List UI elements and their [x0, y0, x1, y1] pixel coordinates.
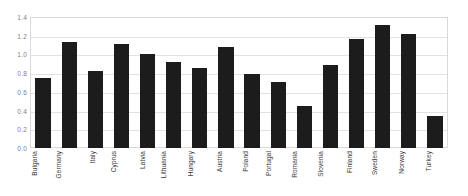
x-tick-label: Romania	[291, 151, 298, 178]
x-tick-slot: Finland	[344, 149, 370, 196]
x-tick-label: Portugal	[266, 151, 273, 176]
x-tick-label: Poland	[242, 151, 249, 172]
x-tick-slot: Portugal	[265, 149, 291, 196]
x-tick-label: Finland	[346, 151, 353, 173]
x-tick-slot: Latvia	[135, 149, 161, 196]
x-axis: BulgariaGermanyItalyCyprusLatviaLithuani…	[30, 149, 448, 196]
y-tick-label: 0.6	[17, 88, 27, 95]
x-tick-slot: Bulgaria	[30, 149, 56, 196]
x-tick-label: Norway	[397, 151, 404, 174]
x-tick-label: Germany	[55, 151, 62, 178]
plot-area	[30, 17, 448, 148]
x-tick-label: Hungary	[187, 151, 194, 176]
x-tick-label: Turkey	[425, 151, 432, 171]
x-tick-label: Bulgaria	[31, 151, 38, 176]
y-tick-label: 1.2	[17, 32, 27, 39]
x-tick-slot: Cyprus	[108, 149, 134, 196]
y-tick-label: 1.4	[17, 14, 27, 21]
y-tick-label: 0.4	[17, 107, 27, 114]
x-tick-label: Cyprus	[111, 151, 118, 172]
y-tick-label: 0.0	[17, 145, 27, 152]
x-tick-slot: Germany	[56, 149, 82, 196]
gridline	[31, 37, 447, 38]
gridline	[31, 130, 447, 131]
x-tick-slot: Turkey	[422, 149, 448, 196]
x-tick-slot: Italy	[82, 149, 108, 196]
gridline	[31, 55, 447, 56]
x-tick-label: Slovenia	[318, 151, 325, 177]
x-tick-label: Latvia	[139, 151, 146, 169]
gridline	[31, 93, 447, 94]
y-tick-label: 0.2	[17, 126, 27, 133]
x-tick-slot: Poland	[239, 149, 265, 196]
x-tick-label: Italy	[89, 151, 96, 163]
y-tick-label: 1.0	[17, 51, 27, 58]
gridline	[31, 74, 447, 75]
x-tick-slot: Lithuania	[161, 149, 187, 196]
x-tick-label: Lithuania	[160, 151, 167, 178]
x-tick-slot: Sweden	[370, 149, 396, 196]
y-axis: 1.41.21.00.80.60.40.20.0	[0, 17, 27, 148]
gridline	[31, 112, 447, 113]
x-tick-slot: Romania	[291, 149, 317, 196]
x-tick-label: Austria	[215, 151, 222, 172]
x-tick-slot: Austria	[213, 149, 239, 196]
x-tick-slot: Hungary	[187, 149, 213, 196]
x-tick-slot: Norway	[396, 149, 422, 196]
y-tick-label: 0.8	[17, 70, 27, 77]
x-tick-slot: Slovenia	[317, 149, 343, 196]
x-tick-label: Sweden	[371, 151, 378, 175]
bar-chart: 1.41.21.00.80.60.40.20.0 BulgariaGermany…	[0, 0, 468, 196]
